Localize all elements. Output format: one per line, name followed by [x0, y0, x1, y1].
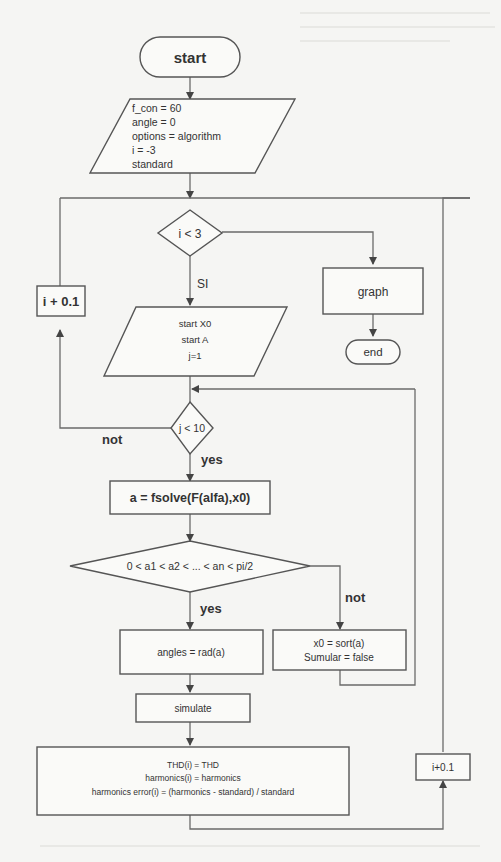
scanned-page: start f_con = 60 angle = 0 options = alg… [0, 0, 501, 862]
node-angles: angles = rad(a) [120, 630, 263, 674]
results-line: THD(i) = THD [167, 760, 219, 770]
init-line: standard [132, 158, 173, 170]
node-fsolve: a = fsolve(F(alfa),x0) [110, 481, 270, 514]
flowchart: start f_con = 60 angle = 0 options = alg… [0, 0, 501, 862]
edge-inc-right-top [443, 198, 470, 752]
sort-line: x0 = sort(a) [314, 638, 365, 649]
node-start-x0: start X0 start A j=1 [104, 307, 287, 376]
node-cond-order: 0 < a1 < a2 < ... < an < pi/2 [70, 541, 310, 592]
start-x0-line: j=1 [188, 350, 202, 361]
node-fsolve-label: a = fsolve(F(alfa),x0) [130, 491, 251, 505]
start-x0-line: start X0 [179, 318, 212, 329]
node-simulate-label: simulate [174, 703, 212, 714]
node-graph: graph [323, 268, 423, 314]
edge-label-not-j: not [102, 432, 123, 447]
node-start-label: start [174, 49, 207, 66]
node-cond-j-label: j < 10 [178, 422, 205, 434]
node-angles-label: angles = rad(a) [157, 647, 225, 658]
node-simulate: simulate [136, 694, 250, 722]
node-start: start [140, 37, 240, 77]
node-inc-i-right-label: i+0.1 [432, 762, 454, 773]
results-line: harmonics(i) = harmonics [145, 773, 241, 783]
edge-cond-i-graph [222, 232, 373, 264]
edge-label-yes-order: yes [200, 601, 222, 616]
edge-cond-sort [310, 566, 340, 629]
node-cond-i: i < 3 [158, 210, 222, 256]
node-end-label: end [363, 346, 382, 358]
node-graph-label: graph [358, 285, 389, 299]
node-cond-i-label: i < 3 [178, 227, 201, 241]
node-inc-i-right: i+0.1 [416, 754, 470, 780]
edges [60, 77, 470, 829]
node-init: f_con = 60 angle = 0 options = algorithm… [90, 99, 295, 173]
edge-label-si: SI [197, 277, 208, 291]
edge-label-not-order: not [345, 590, 366, 605]
start-x0-line: start A [182, 334, 210, 345]
sort-line: Sumular = false [304, 652, 374, 663]
init-line: f_con = 60 [132, 102, 181, 114]
node-results: THD(i) = THD harmonics(i) = harmonics ha… [37, 747, 349, 815]
node-cond-j: j < 10 [171, 402, 213, 454]
node-cond-order-label: 0 < a1 < a2 < ... < an < pi/2 [127, 560, 254, 572]
node-inc-i-left: i + 0.1 [37, 286, 85, 316]
init-line: angle = 0 [132, 116, 176, 128]
edge-label-yes-j: yes [201, 452, 223, 467]
init-line: i = -3 [132, 144, 156, 156]
node-inc-i-left-label: i + 0.1 [43, 294, 80, 309]
node-sort: x0 = sort(a) Sumular = false [273, 630, 406, 670]
init-line: options = algorithm [132, 130, 221, 142]
node-end: end [346, 340, 400, 364]
results-line: harmonics error(i) = (harmonics - standa… [92, 787, 295, 797]
